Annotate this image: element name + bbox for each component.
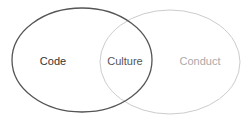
venn-diagram: Code Culture Conduct xyxy=(0,0,251,121)
conduct-label: Conduct xyxy=(180,55,221,67)
code-label: Code xyxy=(40,55,66,67)
culture-label: Culture xyxy=(107,55,142,67)
